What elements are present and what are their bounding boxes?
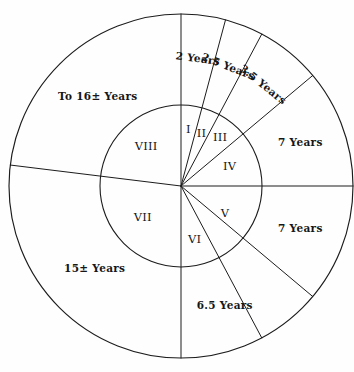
sector-divider-1 — [181, 20, 226, 186]
sector-dividers — [10, 14, 353, 358]
outer-sector-label-6: 15± Years — [64, 262, 125, 274]
outer-sector-label-2: 3.5 Years — [238, 62, 289, 107]
inner-sector-label-7: VIII — [134, 139, 158, 153]
outer-sector-label-7: To 16± Years — [58, 90, 137, 102]
sector-divider-8 — [10, 165, 181, 186]
outer-sector-label-3: 7 Years — [278, 136, 323, 148]
inner-sector-label-1: II — [197, 126, 207, 140]
inner-sector-label-6: VII — [133, 210, 152, 224]
inner-sector-label-3: IV — [223, 159, 237, 173]
outer-sector-label-5: 6.5 Years — [197, 299, 253, 311]
inner-sector-label-5: VI — [187, 232, 201, 246]
inner-sector-label-0: I — [186, 122, 191, 136]
wheel-diagram: 2 Years2.5 Years3.5 Years7 Years7 Years6… — [0, 0, 354, 372]
inner-ring-labels: IIIIIIIVVVIVIIVIII — [133, 122, 237, 246]
inner-sector-label-4: V — [220, 206, 230, 220]
wheel-svg: 2 Years2.5 Years3.5 Years7 Years7 Years6… — [0, 0, 354, 372]
inner-sector-label-2: III — [213, 130, 227, 144]
outer-sector-label-4: 7 Years — [278, 222, 323, 234]
